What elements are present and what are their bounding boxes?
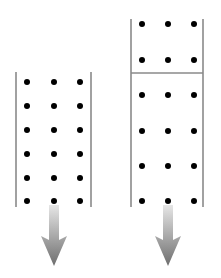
particle-dot	[77, 127, 83, 133]
particle-dot	[191, 128, 197, 134]
particle-dot	[165, 198, 171, 204]
particle-dot	[51, 198, 57, 204]
particle-dot	[77, 198, 83, 204]
right-column	[131, 19, 203, 266]
particle-dot	[165, 128, 171, 134]
particle-dot	[165, 21, 171, 27]
particle-dot	[191, 57, 197, 63]
particle-dot	[139, 57, 145, 63]
particle-dot	[139, 198, 145, 204]
particle-dot	[51, 79, 57, 85]
particle-dot	[24, 151, 30, 157]
particle-dot	[24, 198, 30, 204]
particle-dot	[191, 198, 197, 204]
particle-dot	[24, 127, 30, 133]
particle-dot	[139, 163, 145, 169]
particle-dot	[24, 175, 30, 181]
particle-dot	[165, 163, 171, 169]
particle-dot	[51, 151, 57, 157]
diagram-canvas	[0, 0, 221, 278]
particle-dot	[51, 127, 57, 133]
particle-dot	[191, 163, 197, 169]
down-arrow-icon	[155, 205, 181, 266]
particle-dot	[51, 103, 57, 109]
particle-dot	[24, 103, 30, 109]
particle-dot	[51, 175, 57, 181]
particle-dot	[139, 92, 145, 98]
particle-dot	[191, 21, 197, 27]
particle-dot	[77, 79, 83, 85]
particle-dot	[165, 57, 171, 63]
particle-dot	[24, 79, 30, 85]
particle-dot	[165, 92, 171, 98]
particle-dot	[77, 103, 83, 109]
particle-dot	[77, 151, 83, 157]
down-arrow-icon	[41, 205, 67, 266]
particle-dot	[77, 175, 83, 181]
particle-dot	[139, 21, 145, 27]
particle-dot	[191, 92, 197, 98]
left-column	[16, 72, 91, 266]
particle-dot	[139, 128, 145, 134]
columns-group	[16, 19, 203, 266]
